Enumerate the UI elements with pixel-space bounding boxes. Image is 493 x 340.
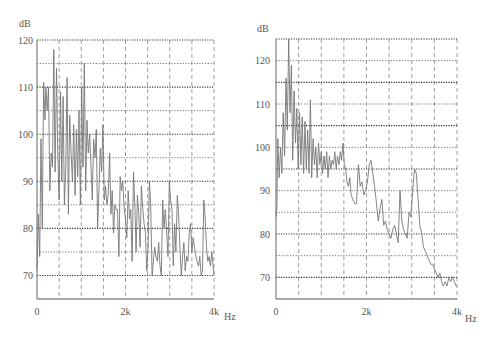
right-x-tick-labels: 02k4k [274,306,463,317]
left-spectrum-chart: dB 120110100908070 02k4k Hz [18,18,236,322]
y-tick-label: 70 [23,270,33,281]
y-tick-label: 100 [18,129,33,140]
x-tick-label: 2k [121,306,131,317]
right-spectrum-chart: dB 120110100908070 02k4k Hz [255,23,477,324]
x-tick-label: 0 [274,306,279,317]
y-tick-label: 120 [255,55,270,66]
x-tick-label: 0 [35,306,40,317]
y-tick-label: 100 [255,142,270,153]
right-x-unit-label: Hz [465,313,477,324]
right-y-tick-labels: 120110100908070 [255,55,270,283]
y-tick-label: 110 [18,82,33,93]
left-x-tick-labels: 02k4k [35,306,220,317]
right-y-unit-label: dB [257,23,269,34]
y-tick-label: 70 [260,272,270,283]
left-y-unit-label: dB [19,18,31,29]
x-tick-label: 2k [362,306,372,317]
y-tick-label: 110 [255,99,270,110]
x-tick-label: 4k [209,306,219,317]
y-tick-label: 80 [260,229,270,240]
y-tick-label: 120 [18,35,33,46]
charts-canvas: dB 120110100908070 02k4k Hz dB 120110100… [0,0,493,340]
left-y-tick-labels: 120110100908070 [18,35,33,281]
y-tick-label: 90 [23,176,33,187]
left-x-unit-label: Hz [224,311,236,322]
y-tick-label: 90 [260,185,270,196]
y-tick-label: 80 [23,223,33,234]
x-tick-label: 4k [452,306,462,317]
